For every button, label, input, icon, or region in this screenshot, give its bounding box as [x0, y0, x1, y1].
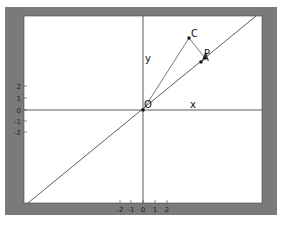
y-tick-label: -1 [14, 118, 21, 126]
plot-svg: O C P A x y 2 1 0 -1 -2 -2 -1 0 1 2 [0, 0, 281, 230]
x-tick-label: -1 [128, 206, 135, 214]
label-a: A [202, 52, 209, 63]
y-tick-label: 0 [17, 107, 21, 115]
x-tick-label: -2 [117, 206, 124, 214]
y-axis-label: y [145, 53, 151, 64]
y-tick-label: 1 [17, 95, 21, 103]
label-origin: O [144, 99, 152, 110]
y-tick-label: 2 [17, 83, 21, 91]
x-axis-label: x [190, 99, 196, 110]
x-tick-label: 1 [153, 206, 157, 214]
x-tick-label: 2 [165, 206, 169, 214]
x-tick-label: 0 [141, 206, 145, 214]
label-c: C [191, 28, 198, 39]
y-tick-label: -2 [14, 129, 21, 137]
